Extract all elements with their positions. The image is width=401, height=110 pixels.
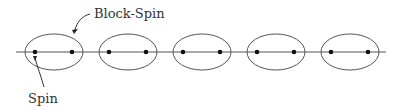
spin-dot bbox=[33, 50, 38, 55]
spin-dot bbox=[366, 50, 371, 55]
block-spin-diagram: Block-Spin Spin bbox=[0, 0, 401, 110]
spin-dot bbox=[107, 50, 112, 55]
spin-arrow bbox=[35, 58, 44, 87]
spin-dot bbox=[292, 50, 297, 55]
spin-dot bbox=[329, 50, 334, 55]
spin-label: Spin bbox=[28, 91, 58, 106]
spin-arrowhead-icon bbox=[33, 56, 37, 61]
spin-dot bbox=[70, 50, 75, 55]
spin-dot bbox=[255, 50, 260, 55]
spin-dot bbox=[144, 50, 149, 55]
spin-dot bbox=[181, 50, 186, 55]
spin-dot bbox=[218, 50, 223, 55]
block-spin-label: Block-Spin bbox=[94, 6, 165, 21]
block-spin-arrow bbox=[75, 14, 90, 30]
block-spin-arrowhead-icon bbox=[72, 29, 78, 34]
